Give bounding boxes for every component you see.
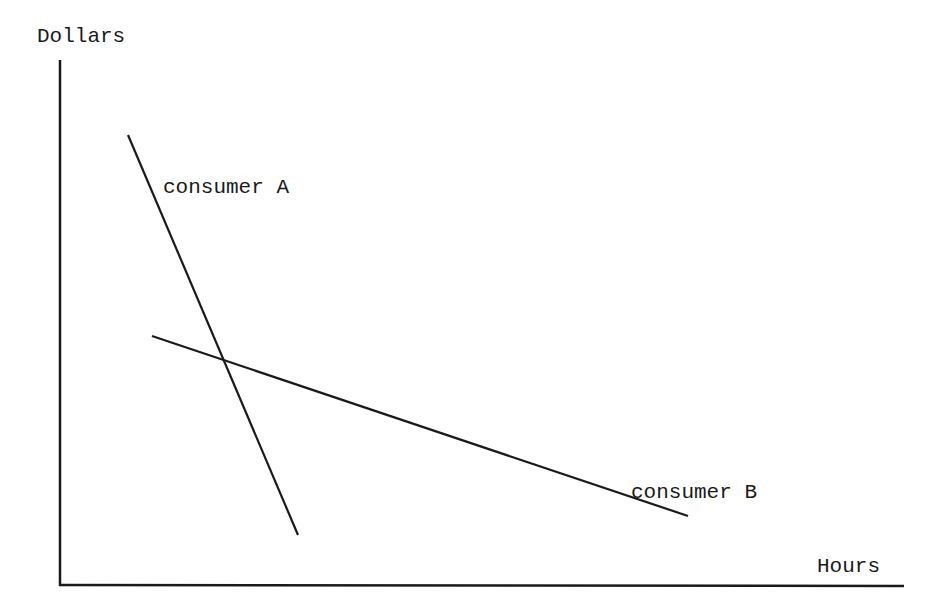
- y-axis-label: Dollars: [37, 25, 125, 48]
- consumer-b-line: [152, 336, 688, 516]
- x-axis: [59, 585, 904, 586]
- x-axis-label: Hours: [817, 555, 880, 578]
- consumer-a-label: consumer A: [163, 176, 289, 199]
- consumer-b-label: consumer B: [631, 481, 757, 504]
- demand-diagram: Dollars Hours consumer A consumer B: [0, 0, 936, 615]
